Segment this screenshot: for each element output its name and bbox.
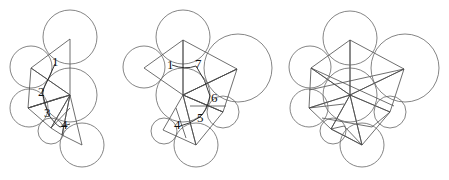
face-medium bbox=[331, 95, 362, 145]
vertex-circle bbox=[10, 46, 52, 88]
edge bbox=[309, 69, 404, 90]
vertex-circle bbox=[123, 46, 165, 88]
triangulated-net-figure: 1 2 3 4 1 7 6 5 4 bbox=[0, 0, 449, 180]
vertex-circle bbox=[371, 34, 439, 102]
face-label: 5 bbox=[197, 110, 204, 125]
face-1 bbox=[31, 39, 70, 95]
face-label: 4 bbox=[61, 117, 68, 132]
face-label: 2 bbox=[38, 84, 45, 99]
face-label: 7 bbox=[195, 56, 202, 71]
face-label: 4 bbox=[174, 117, 181, 132]
face-1 bbox=[144, 40, 183, 95]
panel-3 bbox=[289, 11, 439, 167]
face-label: 6 bbox=[211, 90, 218, 105]
panel-2: 1 7 6 5 4 bbox=[123, 10, 272, 167]
edge bbox=[322, 118, 372, 127]
face-label: 1 bbox=[167, 57, 174, 72]
face-label: 1 bbox=[52, 54, 59, 69]
vertex-circle bbox=[320, 118, 346, 144]
face-label: 3 bbox=[44, 105, 51, 120]
panel-1: 1 2 3 4 bbox=[10, 10, 104, 167]
